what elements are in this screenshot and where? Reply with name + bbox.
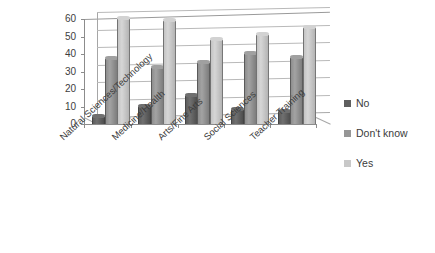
legend-label: No: [356, 98, 369, 109]
x-axis-label: Natural Sciences/Technology: [58, 51, 154, 142]
x-axis-label: Arts/Fine Arts: [156, 96, 205, 142]
legend-item-no: No: [344, 98, 408, 109]
legend-label: Yes: [356, 158, 373, 169]
legend-item-dont-know: Don't know: [344, 128, 408, 139]
legend-swatch-no-icon: [344, 100, 351, 107]
legend-item-yes: Yes: [344, 158, 408, 169]
legend-swatch-yes-icon: [344, 160, 351, 167]
legend-swatch-dont-know-icon: [344, 130, 351, 137]
chart-legend: No Don't know Yes: [344, 98, 408, 188]
legend-label: Don't know: [356, 128, 408, 139]
bar-chart: 60 50 40 30 20 10 0 Natural Sciences/Tec…: [0, 0, 435, 253]
